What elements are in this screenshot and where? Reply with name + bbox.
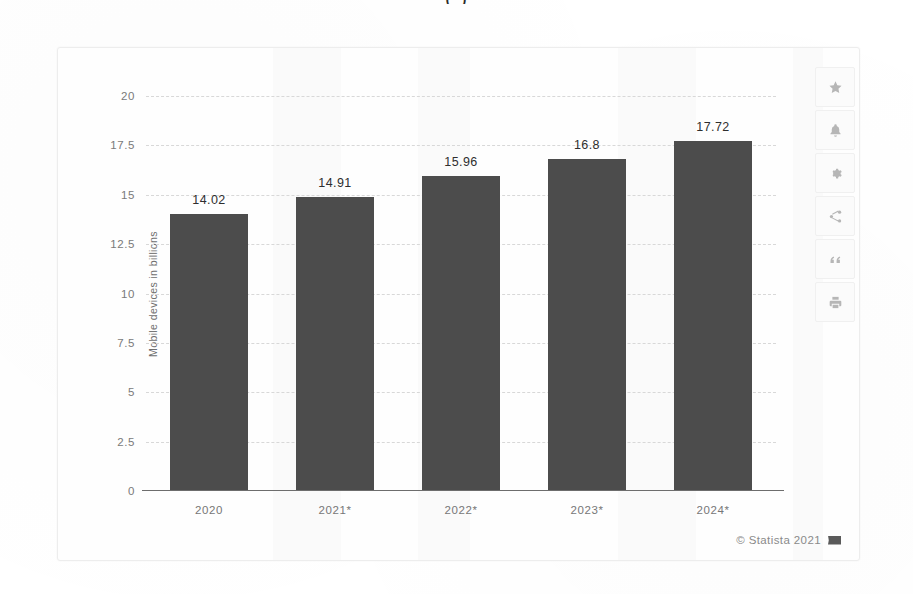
bar[interactable] xyxy=(296,197,373,491)
flag-icon xyxy=(828,536,841,545)
y-axis-tick-label: 12.5 xyxy=(110,238,135,250)
bar-slot: 17.722024* xyxy=(674,96,751,491)
x-axis-tick-label: 2021* xyxy=(280,504,389,516)
bar-value-label: 16.8 xyxy=(548,138,625,152)
x-axis-tick-label: 2020 xyxy=(154,504,263,516)
gear-icon[interactable] xyxy=(815,153,855,193)
x-axis-tick-label: 2023* xyxy=(532,504,641,516)
y-axis-tick-label: 2.5 xyxy=(117,436,135,448)
bar-slot: 14.912021* xyxy=(296,96,373,491)
quote-icon[interactable] xyxy=(815,239,855,279)
bar-value-label: 14.91 xyxy=(296,176,373,190)
bar-value-label: 14.02 xyxy=(170,193,247,207)
bar[interactable] xyxy=(170,214,247,491)
bar[interactable] xyxy=(548,159,625,491)
y-axis-tick-label: 5 xyxy=(128,386,135,398)
share-icon[interactable] xyxy=(815,196,855,236)
y-axis-tick-label: 0 xyxy=(128,485,135,497)
y-axis-tick-label: 20 xyxy=(121,90,135,102)
clipped-title-text: ( ) xyxy=(0,0,913,4)
bar-value-label: 17.72 xyxy=(674,120,751,134)
bar[interactable] xyxy=(674,141,751,491)
bar-slot: 16.82023* xyxy=(548,96,625,491)
x-axis-line xyxy=(142,490,784,491)
x-axis-tick-label: 2022* xyxy=(406,504,515,516)
x-axis-tick-label: 2024* xyxy=(658,504,767,516)
star-icon[interactable] xyxy=(815,67,855,107)
bars-group: 14.02202014.912021*15.962022*16.82023*17… xyxy=(146,96,776,491)
credit-line: © Statista 2021 xyxy=(736,534,841,546)
chart-card: Mobile devices in billions 2017.51512.51… xyxy=(57,47,860,561)
bell-icon[interactable] xyxy=(815,110,855,150)
y-axis-tick-label: 15 xyxy=(121,189,135,201)
y-axis-tick-label: 7.5 xyxy=(117,337,135,349)
credit-text: © Statista 2021 xyxy=(736,534,821,546)
chart-toolbar xyxy=(815,67,853,322)
y-axis-tick-label: 10 xyxy=(121,288,135,300)
bar-slot: 15.962022* xyxy=(422,96,499,491)
print-icon[interactable] xyxy=(815,282,855,322)
y-axis-tick-label: 17.5 xyxy=(110,139,135,151)
bar[interactable] xyxy=(422,176,499,491)
bar-slot: 14.022020 xyxy=(170,96,247,491)
bar-chart-plot-area: Mobile devices in billions 2017.51512.51… xyxy=(146,96,776,491)
bar-value-label: 15.96 xyxy=(422,155,499,169)
